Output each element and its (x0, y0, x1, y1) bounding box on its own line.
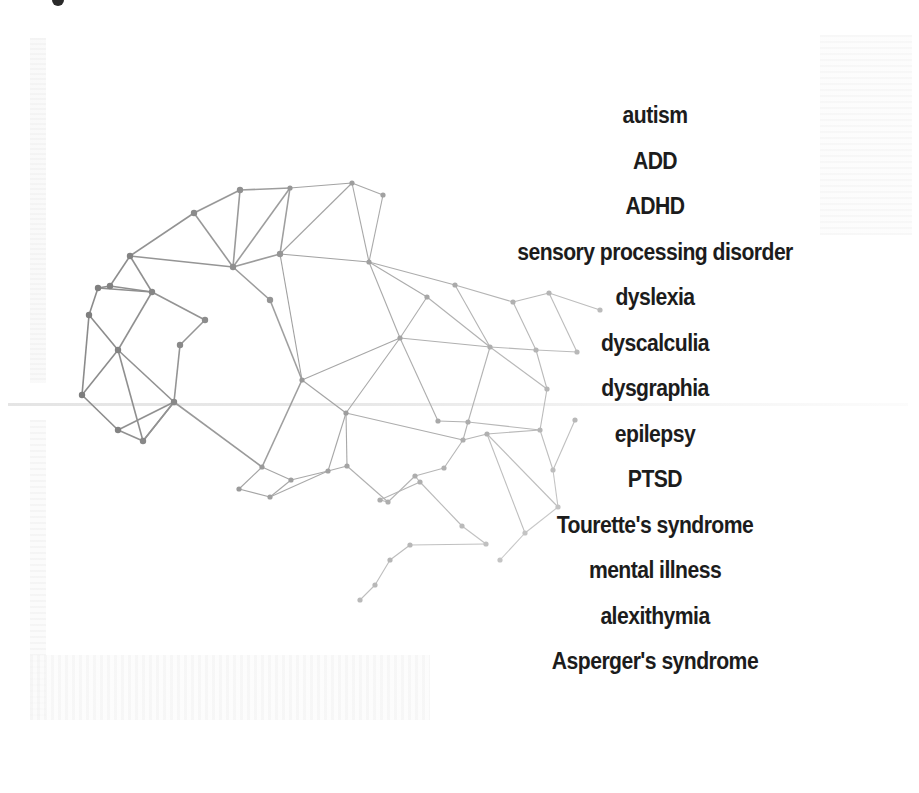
network-node (127, 253, 133, 259)
network-edge (194, 190, 240, 213)
network-node (107, 283, 113, 289)
network-edge (328, 466, 347, 471)
network-node (230, 264, 236, 270)
network-node (424, 294, 429, 299)
network-edge (240, 188, 290, 190)
network-edge (463, 422, 468, 440)
network-edge (174, 345, 180, 402)
network-node (177, 342, 183, 348)
network-node (417, 479, 422, 484)
network-node (380, 192, 385, 197)
network-node (343, 410, 348, 415)
network-edge (400, 297, 427, 338)
network-node (267, 494, 272, 499)
network-edge (438, 421, 468, 422)
page: autism ADD ADHD sensory processing disor… (0, 0, 919, 793)
network-node (377, 497, 382, 502)
network-node (459, 523, 464, 528)
network-edge (130, 213, 194, 256)
network-edge (380, 482, 420, 500)
network-node (202, 317, 208, 323)
network-edge (280, 183, 352, 254)
network-edge (369, 262, 400, 338)
condition-item: dyslexia (494, 275, 816, 321)
network-edge (302, 380, 346, 413)
network-edge (118, 402, 174, 430)
network-node (349, 180, 354, 185)
network-edge (388, 476, 415, 502)
network-edge (280, 254, 369, 262)
network-node (460, 437, 465, 442)
network-edge (400, 338, 438, 421)
condition-item: sensory processing disorder (494, 230, 816, 276)
network-node (171, 399, 177, 405)
network-node (86, 312, 92, 318)
network-edge (346, 413, 463, 440)
network-node (288, 477, 293, 482)
network-node (325, 468, 330, 473)
network-edge (400, 338, 490, 347)
network-node (149, 289, 155, 295)
network-edge (410, 544, 486, 545)
network-edge (280, 254, 302, 380)
network-node (79, 392, 85, 398)
network-edge (369, 195, 383, 262)
network-edge (130, 256, 152, 292)
network-edge (239, 489, 270, 497)
network-node (259, 464, 264, 469)
network-edge (82, 350, 118, 395)
network-edge (420, 482, 462, 526)
network-node (95, 285, 101, 291)
condition-item: ADD (494, 139, 816, 185)
network-node (115, 427, 121, 433)
network-node (267, 297, 273, 303)
network-node (237, 187, 243, 193)
network-node (299, 377, 304, 382)
network-edge (262, 380, 302, 467)
condition-item: epilepsy (494, 412, 816, 458)
network-node (115, 347, 121, 353)
network-edge (174, 402, 262, 467)
network-edge (180, 320, 205, 345)
network-node (441, 465, 446, 470)
network-edge (89, 315, 118, 350)
network-node (372, 582, 377, 587)
network-node (397, 335, 402, 340)
network-edge (89, 288, 98, 315)
network-edge (118, 292, 152, 350)
network-node (344, 463, 349, 468)
network-edge (118, 430, 143, 441)
network-node (357, 597, 362, 602)
network-edge (130, 256, 233, 267)
condition-item: Asperger's syndrome (494, 639, 816, 685)
condition-item: alexithymia (494, 594, 816, 640)
network-edge (239, 467, 262, 489)
network-edge (369, 262, 455, 285)
network-node (412, 473, 417, 478)
network-edge (291, 471, 328, 480)
condition-item: Tourette's syndrome (494, 503, 816, 549)
network-edge (233, 267, 270, 300)
network-edge (82, 395, 118, 430)
condition-item: ADHD (494, 184, 816, 230)
network-edge (352, 183, 383, 195)
network-edge (352, 183, 369, 262)
network-node (191, 210, 197, 216)
network-edge (369, 262, 427, 297)
network-edge (82, 315, 89, 395)
network-edge (328, 413, 346, 471)
condition-item: PTSD (494, 457, 816, 503)
network-edge (280, 188, 290, 254)
network-node (277, 251, 283, 257)
network-node (452, 282, 457, 287)
network-edge (390, 545, 410, 560)
condition-item: mental illness (494, 548, 816, 594)
network-node (465, 419, 470, 424)
network-edge (194, 213, 233, 267)
network-node (387, 557, 392, 562)
network-edge (152, 292, 205, 320)
network-edge (270, 300, 302, 380)
network-edge (360, 585, 375, 600)
network-node (366, 259, 371, 264)
condition-item: dyscalculia (494, 321, 816, 367)
